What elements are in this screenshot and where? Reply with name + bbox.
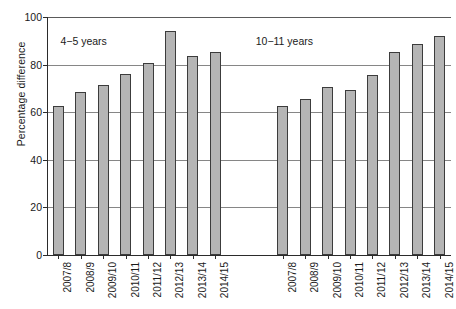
bar [345, 90, 356, 255]
bar [75, 92, 86, 255]
bar [300, 99, 311, 255]
x-tick-label: 2008/9 [85, 262, 96, 293]
bar [53, 106, 64, 255]
x-tick-label: 2014/15 [444, 262, 455, 298]
bar-chart: Percentage difference 020406080100 4−5 y… [0, 0, 456, 309]
group-label-old: 10−11 years [256, 35, 313, 47]
x-tick-mark [81, 255, 82, 259]
bar [412, 44, 423, 255]
x-tick-mark [215, 255, 216, 259]
x-tick-mark [395, 255, 396, 259]
x-tick-mark [283, 255, 284, 259]
x-tick-mark [193, 255, 194, 259]
bar [165, 31, 176, 255]
y-tick-label: 60 [30, 106, 42, 118]
x-tick-label: 2013/14 [421, 262, 432, 298]
y-tick-label: 80 [30, 59, 42, 71]
x-tick-label: 2011/12 [376, 262, 387, 297]
bar [187, 56, 198, 255]
x-tick-label: 2010/11 [354, 262, 365, 297]
bar [98, 85, 109, 255]
x-axis-line [47, 255, 451, 256]
x-tick-mark [350, 255, 351, 259]
y-axis-line [47, 17, 48, 255]
x-tick-mark [170, 255, 171, 259]
y-tick-label: 40 [30, 154, 42, 166]
x-tick-mark [417, 255, 418, 259]
bar [143, 63, 154, 255]
x-tick-label: 2014/15 [219, 262, 230, 298]
y-tick-label: 100 [24, 11, 42, 23]
bar [367, 75, 378, 255]
y-tick-label: 0 [36, 249, 42, 261]
x-tick-mark [440, 255, 441, 259]
x-tick-mark [58, 255, 59, 259]
x-tick-label: 2010/11 [130, 262, 141, 297]
bar [322, 87, 333, 255]
bar [434, 36, 445, 255]
group-label-young: 4−5 years [60, 35, 106, 47]
x-tick-label: 2011/12 [152, 262, 163, 297]
gridline [47, 17, 451, 18]
bar [389, 52, 400, 255]
x-tick-mark [148, 255, 149, 259]
bar [277, 106, 288, 255]
x-tick-mark [103, 255, 104, 259]
x-tick-label: 2008/9 [309, 262, 320, 293]
x-tick-mark [305, 255, 306, 259]
plot-area: 020406080100 4−5 years10−11 years 2007/8… [47, 17, 451, 255]
x-tick-label: 2013/14 [197, 262, 208, 298]
x-tick-label: 2007/8 [287, 262, 298, 293]
x-tick-mark [126, 255, 127, 259]
x-tick-mark [328, 255, 329, 259]
x-tick-mark [372, 255, 373, 259]
bar [120, 74, 131, 255]
x-tick-label: 2007/8 [62, 262, 73, 293]
x-tick-label: 2012/13 [399, 262, 410, 298]
x-tick-label: 2012/13 [174, 262, 185, 298]
y-axis-title: Percentage difference [15, 9, 27, 179]
bar [210, 52, 221, 255]
x-tick-label: 2009/10 [332, 262, 343, 298]
x-tick-label: 2009/10 [107, 262, 118, 298]
y-tick-label: 20 [30, 201, 42, 213]
